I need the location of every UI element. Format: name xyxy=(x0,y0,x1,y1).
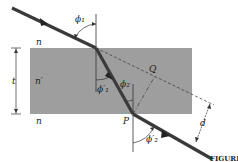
label-phi2-prime: ϕ′₂ xyxy=(146,134,158,144)
label-phi2: ϕ₂ xyxy=(120,79,130,89)
label-n-top: n xyxy=(36,37,42,47)
arrow-icon xyxy=(14,49,18,53)
label-phi1: ϕ₁ xyxy=(75,14,85,24)
label-thickness: t xyxy=(12,76,16,86)
refraction-slab-diagram: n n′ n t ϕ₁ ϕ′₁ ϕ₂ Q P d ϕ′₂ FIGURE xyxy=(0,0,238,162)
label-n-slab: n′ xyxy=(35,76,43,86)
angle-arc-phi1 xyxy=(75,24,96,38)
label-point-p: P xyxy=(122,116,130,126)
label-n-bottom: n xyxy=(36,116,42,126)
arrow-icon xyxy=(207,104,211,109)
glass-slab xyxy=(30,48,192,114)
label-offset: d xyxy=(200,118,206,128)
figure-caption: FIGURE xyxy=(210,154,238,162)
arrow-icon xyxy=(14,109,18,113)
arrow-icon xyxy=(92,22,96,26)
label-point-q: Q xyxy=(149,64,157,74)
label-phi1-prime: ϕ′₁ xyxy=(97,84,109,94)
arrow-icon xyxy=(195,137,199,142)
